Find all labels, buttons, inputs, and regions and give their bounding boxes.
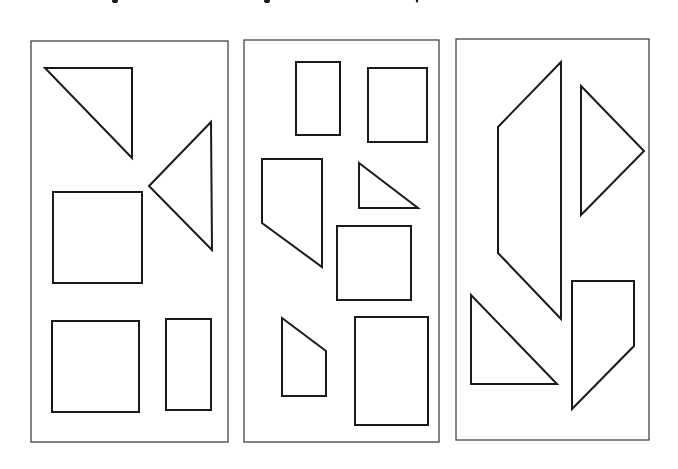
panel-2-frame (244, 40, 439, 442)
rectangle-shape (355, 317, 428, 425)
panel-3 (456, 39, 649, 440)
square-shape (368, 68, 427, 142)
title-mark-1 (112, 0, 118, 3)
rectangle-shape (166, 319, 211, 410)
right-triangle-shape (471, 295, 557, 384)
quadrilateral-shape (498, 62, 561, 319)
figure-canvas (0, 0, 678, 469)
quadrilateral-shape (572, 281, 634, 409)
title-mark-2 (264, 0, 270, 3)
panel-1 (31, 41, 228, 442)
square-shape (52, 321, 139, 412)
right-triangle-shape (45, 68, 132, 158)
panel-1-frame (31, 41, 228, 442)
triangle-shape (149, 122, 212, 250)
right-triangle-shape (359, 163, 418, 208)
rectangle-shape (296, 62, 340, 135)
trapezoid-shape (262, 159, 322, 267)
square-shape (337, 226, 411, 300)
triangle-shape (581, 86, 644, 215)
title-mark-3 (416, 0, 418, 3)
quadrilateral-shape (282, 318, 326, 396)
panel-2 (244, 40, 439, 442)
square-shape (53, 192, 142, 283)
cropped-titles (112, 0, 418, 3)
